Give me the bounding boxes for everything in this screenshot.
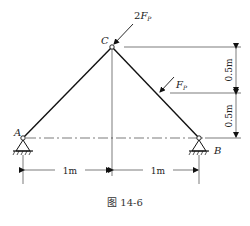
- dim-label-bottom: 0.5m: [224, 104, 234, 127]
- member-ac: [23, 47, 112, 138]
- truss-diagram: 1m 1m 0.5m 0.5m 2FP FP C A B 图 14-6: [0, 0, 250, 226]
- dim-label-top: 0.5m: [224, 58, 234, 81]
- node-label-a: A: [13, 127, 21, 138]
- node-label-b: B: [213, 145, 221, 156]
- node-label-c: C: [101, 35, 109, 46]
- dim-label-left: 1m: [63, 166, 78, 176]
- support-b-icon: [189, 140, 209, 155]
- load-fp-label: FP: [175, 79, 188, 91]
- dim-label-right: 1m: [151, 166, 166, 176]
- load-fp-arrow: [160, 77, 174, 92]
- figure-caption: 图 14-6: [107, 197, 143, 208]
- load-2fp-arrow: [114, 24, 133, 44]
- support-a-icon: [13, 140, 33, 155]
- hinge-c: [110, 45, 114, 49]
- load-2fp-label: 2FP: [134, 10, 152, 22]
- member-cb: [112, 47, 199, 138]
